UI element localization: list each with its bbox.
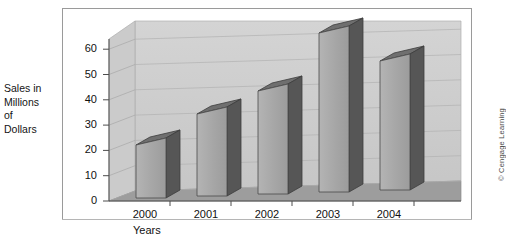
- y-axis-title-line-2: Millions: [4, 96, 60, 110]
- x-axis-title: Years: [133, 224, 161, 236]
- bar-2002: [258, 76, 302, 194]
- y-tick-label-0: 0: [71, 194, 97, 206]
- y-axis-title-line-3: of: [4, 109, 60, 123]
- y-tick-label-20: 20: [71, 143, 97, 155]
- bar-2001: [197, 99, 241, 196]
- bar-2003: [319, 18, 363, 192]
- bar-2004: [380, 46, 424, 190]
- y-axis-title-line-1: Sales in: [4, 82, 60, 96]
- x-axis-ticks: [170, 201, 414, 206]
- y-tick-label-60: 60: [71, 42, 97, 54]
- y-axis-title: Sales in Millions of Dollars: [4, 82, 60, 136]
- y-tick-label-40: 40: [71, 93, 97, 105]
- copyright-credit: © Cengage Learning: [497, 108, 506, 181]
- y-tick-label-30: 30: [71, 118, 97, 130]
- bottom-divider: [62, 219, 472, 220]
- chart-plot-frame: 0 10 20 30 40 50 60 2000 2001 2002 2003 …: [62, 8, 472, 220]
- y-tick-label-50: 50: [71, 68, 97, 80]
- y-axis-title-line-4: Dollars: [4, 123, 60, 137]
- y-tick-label-10: 10: [71, 169, 97, 181]
- y-axis-ticks: [103, 49, 109, 201]
- chart-canvas: [63, 9, 471, 219]
